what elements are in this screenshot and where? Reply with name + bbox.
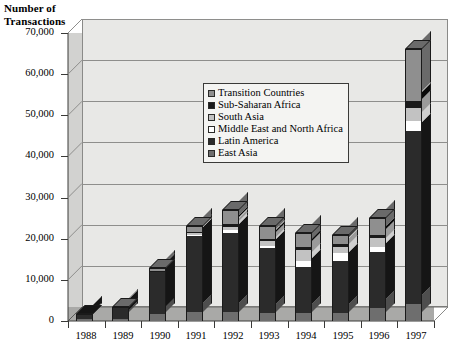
bar-segment[interactable] bbox=[222, 230, 239, 233]
bar-segment[interactable] bbox=[405, 131, 422, 304]
x-axis-tick bbox=[68, 321, 69, 328]
bar-segment[interactable] bbox=[259, 226, 276, 238]
bar-segment[interactable] bbox=[295, 247, 312, 250]
bar-segment[interactable] bbox=[259, 246, 276, 248]
bar-segment-side bbox=[203, 218, 212, 303]
legend-item[interactable]: Sub-Saharan Africa bbox=[208, 99, 344, 111]
legend-item-label: Middle East and North Africa bbox=[218, 123, 343, 135]
bar-segment[interactable] bbox=[369, 308, 386, 321]
bar-segment[interactable] bbox=[149, 272, 166, 315]
y-axis-title-line1: Number of bbox=[4, 2, 66, 15]
y-axis-tick-label: 0 bbox=[6, 315, 54, 325]
x-axis-tick bbox=[214, 321, 215, 328]
bar-segment[interactable] bbox=[332, 247, 349, 253]
x-axis-tick bbox=[361, 321, 362, 328]
y-axis-tick bbox=[61, 156, 68, 157]
bar-segment[interactable] bbox=[332, 313, 349, 321]
bar-segment[interactable] bbox=[295, 261, 312, 267]
y-axis-tick bbox=[61, 33, 68, 34]
y-axis-tick bbox=[61, 115, 68, 116]
bar-segment[interactable] bbox=[405, 101, 422, 108]
y-axis-tick-label: 20,000 bbox=[6, 233, 54, 243]
bar-segment[interactable] bbox=[369, 252, 386, 308]
bar-column[interactable] bbox=[222, 33, 239, 321]
legend-item[interactable]: Middle East and North Africa bbox=[208, 123, 344, 135]
bar-segment[interactable] bbox=[259, 248, 276, 313]
legend-swatch-eastasia-icon bbox=[208, 150, 215, 157]
x-axis-tick bbox=[397, 321, 398, 328]
legend-swatch-mena-icon bbox=[208, 126, 215, 133]
bar-segment[interactable] bbox=[295, 313, 312, 321]
legend-item-label: Sub-Saharan Africa bbox=[218, 99, 301, 111]
bar-column[interactable] bbox=[369, 33, 386, 321]
bar-column[interactable] bbox=[186, 33, 203, 321]
x-axis-tick bbox=[288, 321, 289, 328]
bar-segment[interactable] bbox=[369, 247, 386, 252]
bar-column[interactable] bbox=[332, 33, 349, 321]
bar-segment-side bbox=[386, 234, 395, 299]
legend-swatch-transition-icon bbox=[208, 90, 215, 97]
bar-segment[interactable] bbox=[149, 271, 166, 272]
bar-segment[interactable] bbox=[259, 241, 276, 246]
bar-column[interactable] bbox=[405, 33, 422, 321]
bar-segment[interactable] bbox=[369, 235, 386, 238]
bar-segment[interactable] bbox=[332, 235, 349, 245]
bar-segment[interactable] bbox=[332, 261, 349, 313]
chart-legend: Transition CountriesSub-Saharan AfricaSo… bbox=[203, 83, 349, 163]
bar-segment[interactable] bbox=[222, 312, 239, 321]
bar-segment[interactable] bbox=[76, 319, 93, 321]
legend-item[interactable]: Latin America bbox=[208, 135, 344, 147]
bar-segment[interactable] bbox=[112, 308, 129, 319]
bar-segment[interactable] bbox=[222, 227, 239, 230]
bar-segment[interactable] bbox=[112, 319, 129, 321]
legend-swatch-southasia-icon bbox=[208, 114, 215, 121]
bar-segment[interactable] bbox=[186, 226, 203, 232]
bar-column[interactable] bbox=[295, 33, 312, 321]
bar-segment[interactable] bbox=[405, 121, 422, 131]
bar-column[interactable] bbox=[259, 33, 276, 321]
y-axis-tick-label: 50,000 bbox=[6, 109, 54, 119]
bar-segment[interactable] bbox=[259, 313, 276, 321]
y-axis-tick bbox=[61, 321, 68, 322]
bar-segment[interactable] bbox=[186, 233, 203, 235]
bar-segment[interactable] bbox=[186, 232, 203, 233]
bar-segment[interactable] bbox=[222, 233, 239, 312]
bar-segment[interactable] bbox=[332, 253, 349, 261]
bar-segment[interactable] bbox=[405, 108, 422, 121]
bar-column[interactable] bbox=[76, 33, 93, 321]
bar-segment[interactable] bbox=[149, 314, 166, 321]
bar-segment[interactable] bbox=[186, 235, 203, 236]
legend-item[interactable]: Transition Countries bbox=[208, 87, 344, 99]
legend-item-label: South Asia bbox=[218, 111, 264, 123]
bar-segment[interactable] bbox=[369, 238, 386, 247]
bar-segment[interactable] bbox=[405, 49, 422, 100]
y-axis-tick bbox=[61, 198, 68, 199]
bar-column[interactable] bbox=[149, 33, 166, 321]
y-axis-tick-label: 10,000 bbox=[6, 274, 54, 284]
bar-segment[interactable] bbox=[405, 304, 422, 321]
x-axis-tick bbox=[178, 321, 179, 328]
bar-segment[interactable] bbox=[332, 244, 349, 246]
x-axis-tick bbox=[324, 321, 325, 328]
bar-segment[interactable] bbox=[76, 314, 93, 320]
legend-item-label: Latin America bbox=[218, 135, 278, 147]
bar-segment-side bbox=[422, 113, 431, 295]
x-axis-tick bbox=[434, 321, 435, 328]
bar-segment[interactable] bbox=[295, 250, 312, 261]
bar-segment[interactable] bbox=[186, 236, 203, 312]
y-axis-tick-label: 40,000 bbox=[6, 150, 54, 160]
bar-segment-side bbox=[312, 249, 321, 304]
legend-item[interactable]: East Asia bbox=[208, 147, 344, 159]
legend-item[interactable]: South Asia bbox=[208, 111, 344, 123]
gridline bbox=[82, 19, 448, 20]
bar-segment[interactable] bbox=[222, 224, 239, 226]
bar-segment[interactable] bbox=[259, 239, 276, 241]
y-axis-tick-label: 30,000 bbox=[6, 192, 54, 202]
bar-column[interactable] bbox=[112, 33, 129, 321]
y-axis-tick-label: 70,000 bbox=[6, 27, 54, 37]
bar-segment[interactable] bbox=[186, 312, 203, 321]
bar-segment[interactable] bbox=[369, 218, 386, 235]
bar-segment[interactable] bbox=[295, 233, 312, 248]
bar-segment[interactable] bbox=[222, 210, 239, 224]
bar-segment[interactable] bbox=[295, 267, 312, 313]
